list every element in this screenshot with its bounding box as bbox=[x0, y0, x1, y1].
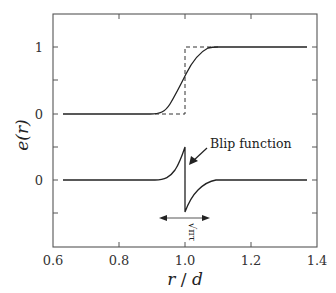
y-tick-label-upper-0: 0 bbox=[35, 107, 43, 122]
arrow-left-icon bbox=[159, 215, 167, 221]
x-tick-label: 1.4 bbox=[307, 253, 328, 268]
y-axis-title: e(r) bbox=[12, 119, 32, 150]
chart: 0.6 0.8 1.0 1.2 1.4 1 0 0 r / d e(r) Bli… bbox=[0, 0, 336, 293]
x-tick-label: 1.0 bbox=[175, 253, 196, 268]
x-tick-label: 0.8 bbox=[109, 253, 130, 268]
y-tick-label-lower-0: 0 bbox=[35, 173, 43, 188]
arrow-right-icon bbox=[202, 215, 210, 221]
x-tick-label: 1.2 bbox=[241, 253, 262, 268]
x-tick-label: 0.6 bbox=[43, 253, 64, 268]
blip-function-label: Blip function bbox=[210, 136, 291, 151]
y-tick-label-upper-1: 1 bbox=[35, 40, 43, 55]
blip-function-curve bbox=[63, 147, 307, 212]
width-label: √πτ bbox=[187, 223, 198, 242]
step-function-dashed bbox=[155, 47, 218, 114]
width-arrow bbox=[159, 215, 210, 221]
x-axis-title: r / d bbox=[167, 269, 203, 289]
